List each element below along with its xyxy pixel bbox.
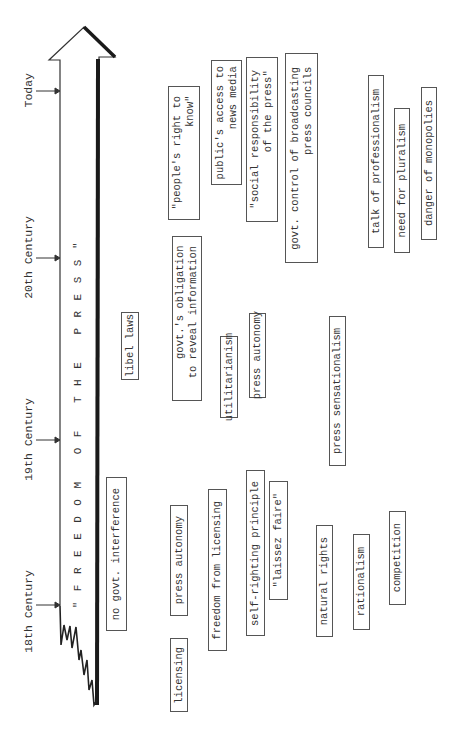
concept-press-autonomy-19th: press autonomy bbox=[249, 313, 266, 398]
concept-text: self-righting principle bbox=[249, 481, 262, 626]
concept-text: govt. control of broadcasting press coun… bbox=[289, 67, 315, 250]
concept-govts-obligation: govt.'s obligation to reveal information bbox=[172, 236, 202, 401]
concept-talk-of-professionalism: talk of professionalism bbox=[368, 75, 384, 248]
concept-text: natural rights bbox=[318, 537, 331, 625]
concept-freedom-from-licensing: freedom from licensing bbox=[208, 489, 227, 651]
concept-text: public's access to news media bbox=[214, 66, 240, 179]
concept-text: no govt. interference bbox=[110, 488, 123, 620]
concept-peoples-right-to-know: "people's right to know" bbox=[168, 86, 200, 220]
concept-text: "laissez faire" bbox=[272, 493, 285, 588]
concept-text: press autonomy bbox=[251, 311, 264, 399]
concept-text: freedom from licensing bbox=[211, 501, 224, 640]
concept-text: licensing bbox=[173, 647, 186, 704]
concept-utilitarianism: utilitarianism bbox=[220, 336, 238, 418]
concept-natural-rights: natural rights bbox=[316, 525, 333, 637]
tick-arrows bbox=[36, 88, 60, 608]
concept-licensing: licensing bbox=[170, 638, 188, 712]
concept-no-govt-interference: no govt. interference bbox=[106, 477, 127, 631]
concept-need-for-pluralism: need for pluralism bbox=[394, 108, 410, 253]
concept-text: press sensationalism bbox=[331, 328, 344, 454]
diagram-title: "FREEDOM OF THE PRESS" bbox=[72, 232, 84, 608]
concept-self-righting-principle: self-righting principle bbox=[246, 470, 265, 636]
concept-press-sensationalism: press sensationalism bbox=[329, 316, 346, 466]
concept-text: govt.'s obligation to reveal information bbox=[174, 246, 200, 391]
concept-text: libel laws bbox=[124, 314, 137, 377]
concept-competition: competition bbox=[389, 511, 406, 605]
concept-text: talk of professionalism bbox=[370, 89, 383, 234]
concept-text: press autonomy bbox=[173, 516, 186, 604]
concept-text: rationalism bbox=[355, 547, 368, 616]
concept-rationalism: rationalism bbox=[353, 534, 370, 630]
concept-social-responsibility: "social responsibility of the press" bbox=[246, 57, 278, 222]
concept-text: "social responsibility of the press" bbox=[249, 70, 275, 209]
concept-publics-access: public's access to news media bbox=[211, 60, 242, 185]
concept-laissez-faire: "laissez faire" bbox=[269, 481, 288, 600]
concept-text: utilitarianism bbox=[223, 333, 236, 421]
concept-text: need for pluralism bbox=[396, 124, 409, 237]
concept-libel-laws: libel laws bbox=[121, 312, 139, 380]
concept-danger-of-monopolies: danger of monopolies bbox=[421, 87, 437, 240]
concept-govt-control-broadcasting: govt. control of broadcasting press coun… bbox=[285, 53, 318, 263]
concept-text: "people's right to know" bbox=[171, 96, 197, 209]
concept-press-autonomy-18th: press autonomy bbox=[170, 505, 188, 616]
concept-text: competition bbox=[391, 523, 404, 592]
concept-text: danger of monopolies bbox=[423, 100, 436, 226]
